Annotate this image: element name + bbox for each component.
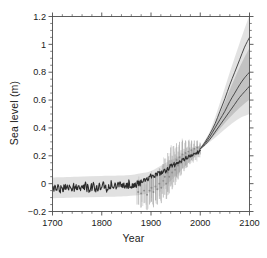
x-tick-label: 2000 (190, 218, 210, 228)
tide-gauge-marker (143, 190, 145, 192)
sea-level-chart-figure: 170018001900200021001.210.80.60.40.20−0.… (0, 0, 267, 258)
tide-gauge-marker (149, 190, 151, 192)
y-tick-label: 0 (41, 179, 46, 189)
x-axis-title: Year (0, 232, 267, 244)
y-tick-label: 1.2 (33, 12, 46, 22)
x-tick-label: 1900 (141, 218, 161, 228)
x-tick-label: 2100 (239, 218, 259, 228)
y-tick-label: 0.6 (33, 95, 46, 105)
tide-gauge-marker (151, 187, 153, 189)
tide-gauge-marker (153, 191, 155, 193)
tide-gauge-marker (156, 188, 158, 190)
x-tick-label: 1700 (42, 218, 62, 228)
tide-gauge-marker (165, 183, 167, 185)
y-tick-label: 1 (41, 40, 46, 50)
y-tick-label: −0.2 (28, 207, 46, 217)
y-tick-label: 0.4 (33, 123, 46, 133)
tide-gauge-marker (193, 148, 195, 150)
tide-gauge-marker (140, 192, 142, 194)
y-tick-label: 0.8 (33, 67, 46, 77)
chart-canvas: 170018001900200021001.210.80.60.40.20−0.… (0, 0, 267, 258)
y-axis-title: Sea level (m) (8, 58, 20, 168)
tide-gauge-marker (137, 191, 139, 193)
y-tick-label: 0.2 (33, 151, 46, 161)
tide-gauge-marker (182, 153, 184, 155)
x-tick-label: 1800 (92, 218, 112, 228)
tide-gauge-marker (164, 176, 166, 178)
tide-gauge-marker (190, 149, 192, 151)
tide-gauge-marker (196, 146, 198, 148)
